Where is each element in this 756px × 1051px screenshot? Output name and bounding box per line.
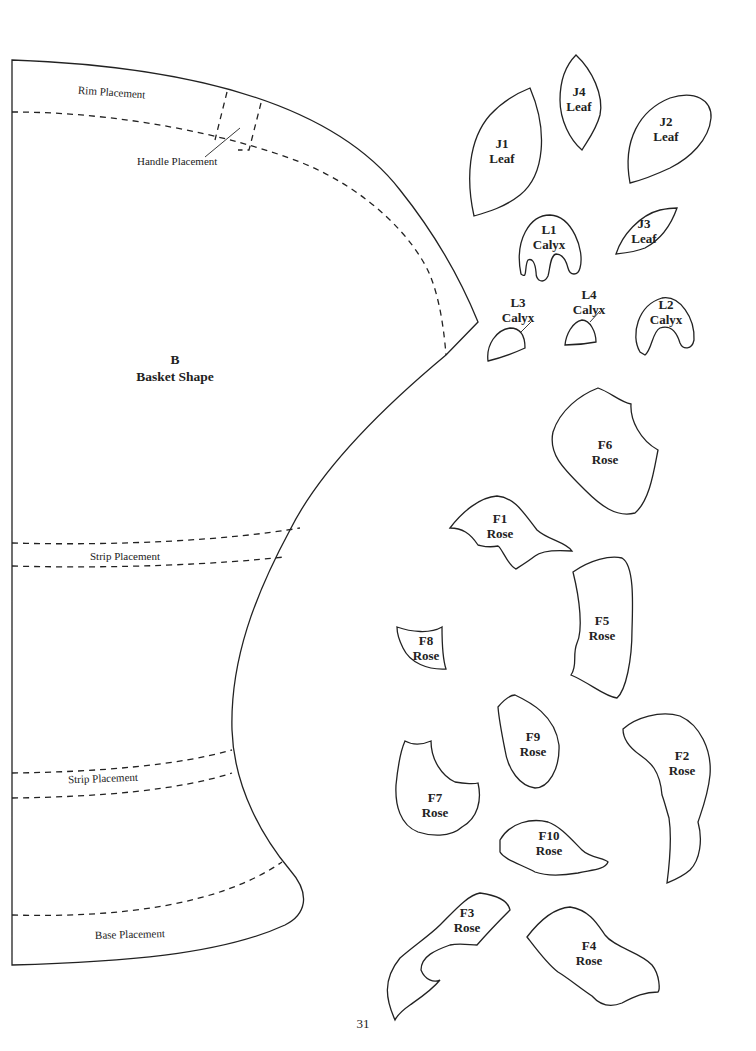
piece-name: Rose <box>415 805 455 820</box>
piece-label-l4: L4 Calyx <box>567 287 611 317</box>
strip-placement-lower-label: Strip Placement <box>68 771 138 785</box>
piece-outline-l3 <box>488 328 525 361</box>
piece-name: Rose <box>662 763 702 778</box>
piece-name: Calyx <box>496 310 540 325</box>
piece-label-f5: F5 Rose <box>582 613 622 643</box>
piece-id: L3 <box>496 295 540 310</box>
basket-piece-label: B Basket Shape <box>132 351 218 385</box>
piece-label-f9: F9 Rose <box>513 729 553 759</box>
piece-id: F2 <box>662 748 702 763</box>
piece-name: Rose <box>582 628 622 643</box>
pattern-page: Rim Placement Handle Placement B Basket … <box>0 0 756 1051</box>
piece-label-l3: L3 Calyx <box>496 295 540 325</box>
basket-piece-name: Basket Shape <box>132 368 218 385</box>
piece-outline-f2 <box>623 714 710 883</box>
piece-name: Leaf <box>482 151 522 166</box>
basket-piece-id: B <box>132 351 218 368</box>
handle-leader <box>205 128 240 157</box>
piece-id: F4 <box>569 938 609 953</box>
piece-label-f2: F2 Rose <box>662 748 702 778</box>
piece-name: Rose <box>480 526 520 541</box>
piece-name: Leaf <box>624 231 664 246</box>
piece-label-l2: L2 Calyx <box>644 297 688 327</box>
piece-label-j4: J4 Leaf <box>559 84 599 114</box>
piece-id: F5 <box>582 613 622 628</box>
piece-id: J2 <box>646 114 686 129</box>
piece-name: Rose <box>513 744 553 759</box>
piece-name: Leaf <box>646 129 686 144</box>
piece-id: F6 <box>585 437 625 452</box>
piece-name: Calyx <box>527 237 571 252</box>
piece-label-j2: J2 Leaf <box>646 114 686 144</box>
piece-name: Rose <box>585 452 625 467</box>
piece-id: F1 <box>480 511 520 526</box>
piece-id: F9 <box>513 729 553 744</box>
strip-upper-top <box>12 528 300 544</box>
piece-id: F7 <box>415 790 455 805</box>
strip-lower-top <box>12 750 232 773</box>
piece-id: J3 <box>624 216 664 231</box>
piece-label-f1: F1 Rose <box>480 511 520 541</box>
piece-label-j1: J1 Leaf <box>482 136 522 166</box>
piece-id: F10 <box>527 828 571 843</box>
piece-id: L2 <box>644 297 688 312</box>
piece-label-f10: F10 Rose <box>527 828 571 858</box>
piece-name: Leaf <box>559 99 599 114</box>
piece-id: F3 <box>447 905 487 920</box>
piece-id: L1 <box>527 222 571 237</box>
piece-outline-l4 <box>565 320 596 345</box>
piece-label-f3: F3 Rose <box>447 905 487 935</box>
piece-id: L4 <box>567 287 611 302</box>
base-placement-line <box>12 862 282 915</box>
strip-placement-upper-label: Strip Placement <box>90 550 160 562</box>
pattern-drawing <box>0 0 756 1051</box>
handle-placement-label: Handle Placement <box>137 155 217 167</box>
piece-name: Calyx <box>644 312 688 327</box>
page-number: 31 <box>348 1016 378 1032</box>
piece-id: F8 <box>406 633 446 648</box>
piece-label-l1: L1 Calyx <box>527 222 571 252</box>
handle-placement-left <box>215 92 227 140</box>
base-placement-label: Base Placement <box>95 927 165 941</box>
piece-id: J1 <box>482 136 522 151</box>
piece-label-f8: F8 Rose <box>406 633 446 663</box>
piece-label-f4: F4 Rose <box>569 938 609 968</box>
piece-name: Rose <box>447 920 487 935</box>
piece-label-f7: F7 Rose <box>415 790 455 820</box>
rim-placement-line <box>12 112 446 355</box>
piece-label-j3: J3 Leaf <box>624 216 664 246</box>
piece-label-f6: F6 Rose <box>585 437 625 467</box>
basket-outline <box>12 60 478 965</box>
piece-name: Rose <box>527 843 571 858</box>
piece-name: Rose <box>569 953 609 968</box>
piece-outline-f7 <box>396 741 480 835</box>
piece-id: J4 <box>559 84 599 99</box>
piece-name: Rose <box>406 648 446 663</box>
piece-name: Calyx <box>567 302 611 317</box>
